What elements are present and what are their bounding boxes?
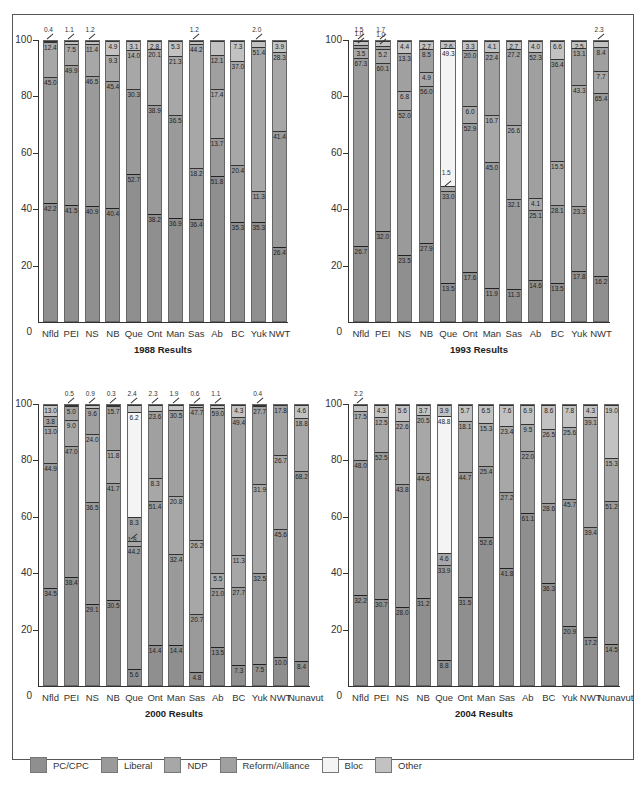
x-axis [38,322,288,323]
segment-ndp: 43.3 [572,85,586,206]
segment-pc: 42.2 [44,203,57,321]
segment-value-label: 42.2 [44,205,57,212]
segment-oth [211,405,224,408]
segment-pc: 36.3 [542,583,555,685]
callout-label: 1.9 [166,390,181,397]
segment-ndp: 11.8 [107,450,120,483]
segment-pc: 7.5 [253,664,266,685]
segment-oth [86,405,99,408]
segment-pc: 14.4 [149,645,162,685]
segment-pc: 8.8 [438,660,451,685]
segment-value-label: 6.9 [521,407,534,414]
segment-lib: 32.5 [253,573,266,664]
callout-label: 0.5 [62,390,77,397]
y-tick-label: 80 [320,90,342,101]
stacked-bar-nfld: 42.245.012.4 [43,40,58,322]
segment-value-label: 2.5 [572,43,586,50]
segment-value-label: 51.2 [605,503,618,510]
segment-value-label: 56.0 [420,88,434,95]
stacked-bar-yuk: 35.311.351.4 [251,40,266,322]
segment-pc: 40.4 [106,208,119,321]
segment-oth: 2.8 [148,41,161,49]
segment-pc: 40.9 [86,206,99,321]
segment-value-label: 13.3 [398,55,412,62]
callout-label: 2.0 [249,26,264,33]
segment-ndp: 15.3 [479,423,492,466]
segment-value-label: 10.0 [274,659,287,666]
segment-value-label: 48.8 [438,418,451,425]
segment-ndp: 5.2 [376,49,390,64]
segment-ref: 13.1 [572,48,586,85]
segment-value-label: 43.8 [396,486,409,493]
segment-oth: 7.8 [563,405,576,427]
stacked-bar-yuk: 7.532.531.927.7 [252,404,267,686]
y-tick-mark [33,517,38,518]
segment-value-label: 17.4 [211,91,224,98]
callout-label: 1.2 [187,26,202,33]
segment-ref: 9.6 [86,408,99,435]
segment-value-label: 51.4 [252,49,265,56]
segment-lib: 45.0 [485,162,499,288]
segment-value-label: 9.3 [106,57,119,64]
segment-oth: 5.7 [459,405,472,421]
legend-label: Bloc [345,760,363,771]
segment-value-label: 44.2 [128,548,141,555]
x-tick-label: NWT [587,328,615,339]
segment-value-label: 45.0 [485,164,499,171]
segment-oth: 3.9 [438,405,451,416]
segment-pc: 36.9 [169,218,182,321]
segment-value-label: 11.4 [86,46,99,53]
segment-value-label: 15.3 [479,425,492,432]
segment-value-label: 26.6 [507,127,521,134]
segment-bloc: 48.8 [438,416,451,553]
segment-pc: 4.8 [190,672,203,685]
segment-ndp: 11.4 [86,44,99,76]
segment-value-label: 24.0 [86,436,99,443]
legend-item-oth: Other [375,757,422,773]
segment-value-label: 4.0 [529,43,543,50]
segment-lib: 13.7 [211,138,224,176]
y-tick-label: 60 [10,511,32,522]
y-tick-label: 40 [320,203,342,214]
y-tick-mark [343,517,348,518]
stacked-bar-ns: 29.136.524.09.6 [85,404,100,686]
segment-lib: 49.9 [65,65,78,205]
segment-oth [252,41,265,47]
y-tick-mark [343,40,348,41]
segment-pc: 13.5 [211,647,224,685]
legend-swatch [101,757,118,773]
segment-value-label: 36.4 [551,61,565,68]
segment-pc: 20.9 [563,626,576,685]
segment-ref: 8.5 [420,49,434,73]
segment-ref: 59.0 [211,408,224,573]
segment-value-label: 22.4 [485,54,499,61]
stacked-bar-pei: 32.060.15.2 [375,40,391,322]
segment-value-label: 6.2 [128,414,141,421]
segment-value-label: 41.4 [273,133,286,140]
segment-ndp: 4.9 [420,72,434,86]
y-tick-label: 40 [10,567,32,578]
segment-value-label: 49.4 [232,419,245,426]
legend-item-bloc: Bloc [322,757,363,773]
y-axis [38,404,39,686]
segment-pc: 32.0 [376,231,390,321]
segment-ndp: 20.5 [417,415,430,472]
segment-lib: 20.4 [231,165,244,222]
segment-value-label: 8.3 [128,519,141,526]
segment-value-label: 5.2 [376,51,390,58]
segment-ref: 27.2 [507,49,521,125]
segment-pc: 7.3 [232,665,245,685]
segment-value-label: 4.3 [584,407,597,414]
segment-value-label: 52.9 [463,125,477,132]
segment-value-label: 26.2 [190,542,203,549]
stacked-bar-man: 36.936.521.35.3 [168,40,183,322]
segment-oth [169,405,182,410]
segment-value-label: 37.0 [231,63,244,70]
segment-oth [128,405,141,412]
segment-oth [149,405,162,411]
segment-value-label: 26.5 [542,431,555,438]
stacked-bar-nfld: 34.544.913.03.813.0 [43,404,58,686]
segment-value-label: 47.7 [190,409,203,416]
chart-1988-results: 02040608010042.245.012.40.4Nfld41.549.97… [38,40,288,362]
legend-swatch [322,757,339,773]
